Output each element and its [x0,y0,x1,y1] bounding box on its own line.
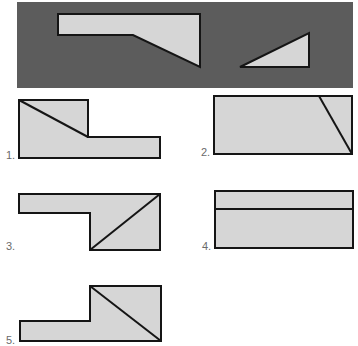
option-5-label: 5. [6,335,15,346]
option-5-shape[interactable] [20,286,161,341]
option-2-shape[interactable] [214,96,352,154]
puzzle-figure [0,0,358,346]
option-3-label: 3. [6,241,15,252]
option-2-outline [214,96,352,154]
option-1-label: 1. [6,150,15,161]
option-3-shape[interactable] [19,194,160,250]
option-1-shape[interactable] [19,100,160,158]
option-4-label: 4. [202,241,211,252]
option-2-label: 2. [201,147,210,158]
option-4-outline [215,191,353,248]
option-3-outline [19,194,160,250]
option-4-shape[interactable] [215,191,353,248]
option-1-outline [19,100,160,158]
option-5-outline [20,286,161,341]
